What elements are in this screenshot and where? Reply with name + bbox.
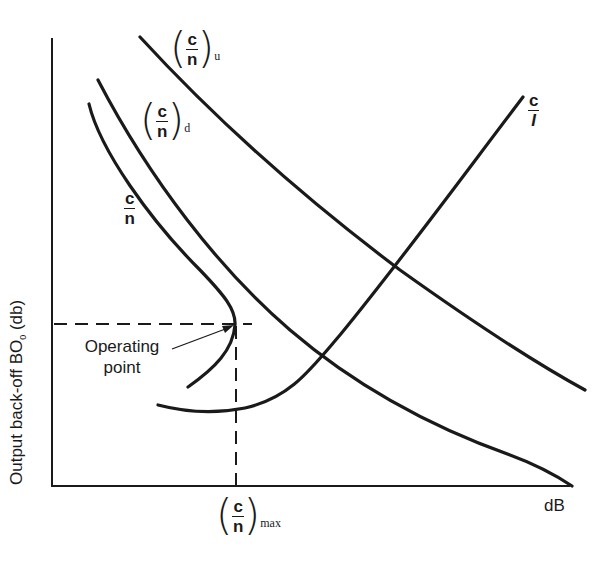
curve-cn-uplink [140,37,585,390]
curve-ci [158,97,523,412]
label-ci: c I [528,92,539,129]
label-cn-total: c n [124,190,135,227]
operating-point-arrow [172,328,228,349]
arrowhead-icon [222,325,234,333]
label-cn-max: ( c n ) max [216,495,281,537]
label-cn-uplink: ( c n ) u [170,28,220,70]
operating-point-label: Operating point [72,336,172,378]
label-cn-downlink: ( c n ) d [140,100,190,142]
y-axis-label: Output back-off BO0 (db) [7,300,28,485]
x-axis-label: dB [544,496,565,516]
diagram-canvas [0,0,612,562]
